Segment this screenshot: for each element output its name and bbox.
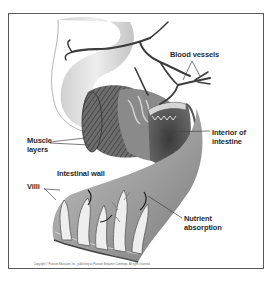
label-nutrient-line2: absorption [184,224,222,233]
label-nutrient-absorption: Nutrient absorption [184,215,222,232]
copyright-notice: Copyright © Pearson Education, Inc., pub… [34,263,150,266]
label-villi: Villi [27,183,40,192]
label-muscle-layers: Muscle layers [27,137,52,154]
label-intestinal-wall: Intestinal wall [57,170,105,179]
label-interior-line2: intestine [212,138,246,147]
label-interior-of-intestine: Interior of intestine [212,129,246,146]
label-blood-vessels: Blood vessels [170,51,219,60]
label-muscle-line2: layers [27,146,52,155]
